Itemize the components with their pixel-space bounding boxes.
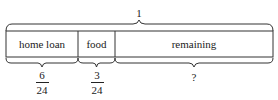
fraction-home-loan: 6 24 xyxy=(32,70,52,96)
denominator: 24 xyxy=(37,85,48,96)
denominator: 24 xyxy=(92,85,103,96)
bottom-brace-home-loan xyxy=(6,58,78,67)
top-brace xyxy=(6,20,273,31)
numerator: 3 xyxy=(94,70,100,81)
bottom-brace-remaining xyxy=(115,58,273,67)
numerator: 6 xyxy=(39,70,45,81)
bottom-brace-food xyxy=(78,58,115,67)
segment-food: food xyxy=(78,31,115,57)
fraction-bar xyxy=(36,82,49,83)
segment-remaining: remaining xyxy=(115,31,273,57)
unknown-remaining-label: ? xyxy=(188,72,200,83)
fraction-food: 3 24 xyxy=(87,70,107,96)
total-label: 1 xyxy=(133,8,145,19)
fraction-bar xyxy=(91,82,104,83)
segment-home-loan: home loan xyxy=(6,31,78,57)
